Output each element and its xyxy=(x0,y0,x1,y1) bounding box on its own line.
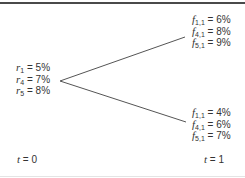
up-branch xyxy=(60,37,185,81)
time-label-t0: t = 0 xyxy=(17,153,37,165)
up-label-f11: f1,1 = 6% xyxy=(192,14,231,26)
down-label-f41: f4,1 = 6% xyxy=(192,119,231,131)
down-label-f11: f1,1 = 4% xyxy=(192,107,231,119)
down-branch xyxy=(60,81,186,122)
root-label-r1: r1 = 5% xyxy=(16,62,50,74)
root-node-labels: r1 = 5% r4 = 7% r5 = 8% xyxy=(16,62,50,97)
bottom-border-rule xyxy=(0,176,245,177)
root-label-r5: r5 = 8% xyxy=(16,85,50,97)
root-label-r4: r4 = 7% xyxy=(16,74,50,86)
up-node-labels: f1,1 = 6% f4,1 = 8% f5,1 = 9% xyxy=(192,14,231,49)
time-label-t1: t = 1 xyxy=(204,153,224,165)
down-label-f51: f5,1 = 7% xyxy=(192,130,231,142)
up-label-f41: f4,1 = 8% xyxy=(192,26,231,38)
down-node-labels: f1,1 = 4% f4,1 = 6% f5,1 = 7% xyxy=(192,107,231,142)
up-label-f51: f5,1 = 9% xyxy=(192,37,231,49)
